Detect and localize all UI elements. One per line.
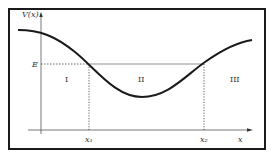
potential-diagram: V(x) E I II III x₁ x₂ x [0,0,271,153]
region-label-1: I [65,75,68,84]
y-axis [39,12,43,134]
potential-curve [18,30,252,97]
energy-label: E [31,60,38,69]
x1-label: x₁ [85,135,93,144]
y-axis-arrow-icon [39,12,43,17]
region-label-2: II [138,75,144,84]
x-axis [28,128,253,132]
y-axis-label: V(x) [22,10,39,19]
x-axis-label: x [238,135,243,144]
region-label-3: III [230,75,239,84]
x2-label: x₂ [200,135,208,144]
x-axis-arrow-icon [247,128,253,132]
